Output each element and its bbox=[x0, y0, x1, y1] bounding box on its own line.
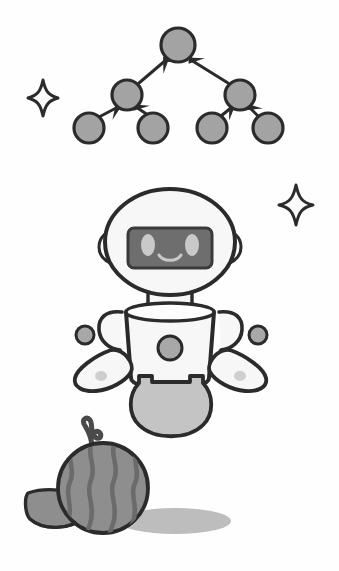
robot-right-hand-detail-icon bbox=[234, 371, 246, 381]
robot-right-orb-icon bbox=[249, 326, 267, 344]
illustration-svg bbox=[0, 0, 339, 571]
robot-visor[interactable] bbox=[128, 228, 212, 268]
robot-left-orb-icon bbox=[76, 326, 94, 344]
tree-node-left-leaf-two[interactable] bbox=[138, 113, 168, 143]
robot-skirt bbox=[131, 376, 212, 436]
robot-right-eye-icon bbox=[185, 234, 199, 256]
tree-node-right-child[interactable] bbox=[225, 80, 255, 110]
tree-node-right-leaf-one[interactable] bbox=[197, 113, 227, 143]
robot-chest-button[interactable] bbox=[158, 336, 182, 360]
robot-torso-rim bbox=[126, 303, 214, 321]
illustration-canvas bbox=[0, 0, 339, 571]
tree-node-root[interactable] bbox=[161, 28, 195, 62]
tree-node-left-leaf-one[interactable] bbox=[74, 113, 104, 143]
robot-left-eye-icon bbox=[141, 234, 155, 256]
robot-left-hand-detail-icon bbox=[95, 371, 107, 381]
tree-node-left-child[interactable] bbox=[112, 80, 142, 110]
tree-node-right-leaf-two[interactable] bbox=[253, 113, 283, 143]
